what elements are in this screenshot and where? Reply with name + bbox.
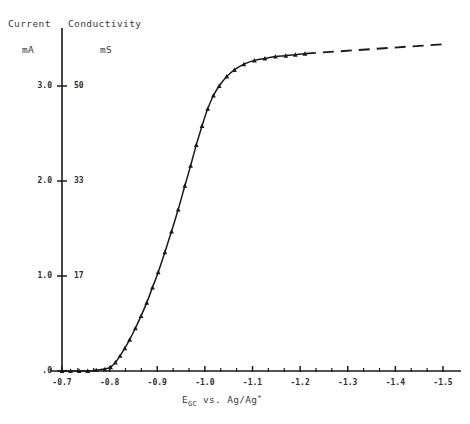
data-point-marker	[200, 124, 205, 128]
plot-area	[0, 0, 470, 424]
data-point-marker	[176, 207, 181, 211]
x-axis-tick-label: -1.1	[233, 378, 273, 387]
x-axis-tick-label: -0.8	[90, 378, 130, 387]
x-axis-tick-label: -1.4	[375, 378, 415, 387]
data-point-marker	[205, 106, 210, 110]
data-point-marker	[144, 300, 149, 304]
x-axis-title-text: vs. Ag/Ag	[197, 394, 257, 405]
x-axis-tick-label: -1.2	[280, 378, 320, 387]
data-point-marker	[188, 163, 193, 167]
x-axis-tick-label: -1.5	[423, 378, 463, 387]
y-axis-right-tick-label: 17	[74, 271, 100, 280]
y-axis-right-tick-label: 50	[74, 81, 100, 90]
x-axis-title-subscript: GC	[188, 400, 197, 408]
measured-curve	[62, 54, 305, 371]
y-axis-left-tick-label: 3.0	[20, 81, 52, 90]
x-axis-tick-label: -0.7	[42, 378, 82, 387]
extrapolated-dashed-line	[305, 44, 443, 54]
x-axis-tick-label: -1.0	[185, 378, 225, 387]
data-point-marker	[182, 183, 187, 187]
data-point-marker	[162, 250, 167, 254]
data-point-marker	[194, 143, 199, 147]
data-point-marker	[139, 314, 144, 318]
y-axis-left-tick-label: 2.0	[20, 176, 52, 185]
data-point-marker	[150, 285, 155, 289]
figure-root: Current mA Conductivity mS .01.02.03.0 1…	[0, 0, 470, 424]
x-axis-title-superscript: +	[257, 393, 262, 401]
x-axis-tick-label: -1.3	[328, 378, 368, 387]
y-axis-left-tick-label: .0	[20, 366, 52, 375]
data-point-marker	[169, 229, 174, 233]
x-axis-tick-label: -0.9	[137, 378, 177, 387]
data-point-marker	[156, 270, 161, 274]
y-axis-right-tick-label: 33	[74, 176, 100, 185]
x-axis-title: EGC vs. Ag/Ag+	[182, 393, 262, 408]
y-axis-left-tick-label: 1.0	[20, 271, 52, 280]
data-point-marker	[133, 326, 138, 330]
